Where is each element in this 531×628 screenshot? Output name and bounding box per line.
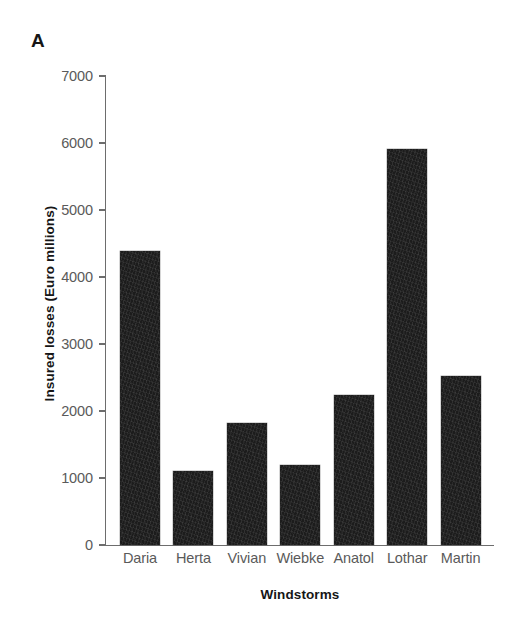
bar-wiebke — [280, 465, 320, 545]
y-tick-label: 4000 — [33, 270, 93, 285]
bar-anatol — [334, 395, 374, 545]
y-tick-label: 2000 — [33, 404, 93, 419]
x-axis-spine — [105, 545, 494, 546]
y-tick-label-wrap: 7000 — [31, 76, 93, 77]
y-tick-label: 1000 — [33, 471, 93, 486]
y-tick-label: 7000 — [33, 69, 93, 84]
y-tick-label: 3000 — [33, 337, 93, 352]
y-tick-label-wrap: 6000 — [31, 143, 93, 144]
bar-vivian — [227, 423, 267, 545]
bar-daria — [120, 251, 160, 545]
x-tick-label-martin: Martin — [421, 551, 501, 566]
y-tick-label-wrap: 2000 — [31, 411, 93, 412]
y-tick-label-wrap: 0 — [31, 545, 93, 546]
figure-root: A Insured losses (Euro millions) 0100020… — [0, 0, 531, 628]
bar-martin — [441, 376, 481, 545]
y-tick-label-wrap: 1000 — [31, 478, 93, 479]
plot-area — [105, 76, 494, 545]
bar-lothar — [387, 149, 427, 545]
bar-herta — [173, 471, 213, 545]
y-tick-label-wrap: 4000 — [31, 277, 93, 278]
y-tick-label: 5000 — [33, 203, 93, 218]
y-tick-label: 0 — [33, 538, 93, 553]
y-tick-label-wrap: 3000 — [31, 344, 93, 345]
panel-label: A — [31, 31, 45, 50]
y-tick-label: 6000 — [33, 136, 93, 151]
y-tick-label-wrap: 5000 — [31, 210, 93, 211]
x-axis-title: Windstorms — [105, 587, 495, 602]
